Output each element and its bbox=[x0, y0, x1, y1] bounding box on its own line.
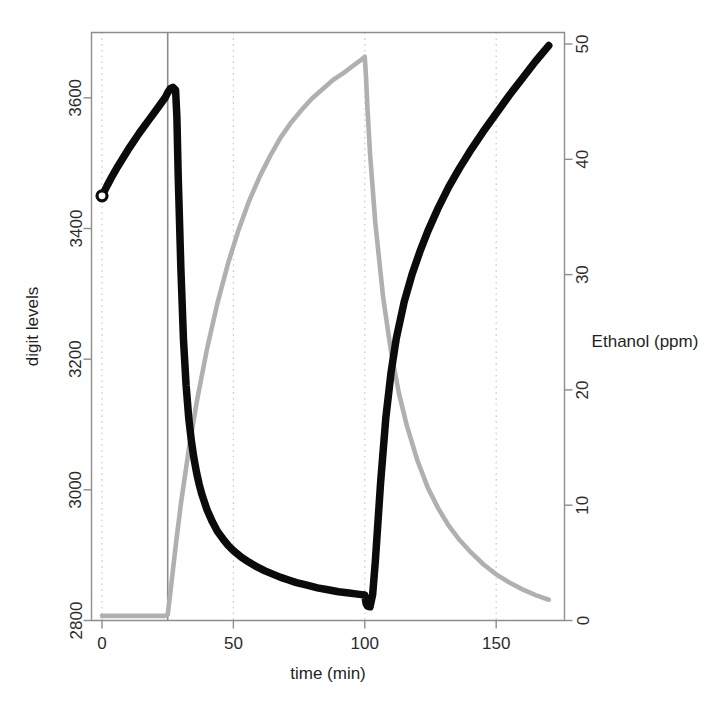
data-series bbox=[97, 46, 549, 616]
y2-tick-label-40: 40 bbox=[574, 150, 593, 169]
chart-figure: 0501001502800300032003400360001020304050… bbox=[0, 0, 720, 706]
line-chart-svg: 0501001502800300032003400360001020304050… bbox=[0, 0, 720, 706]
y-tick-label-3000: 3000 bbox=[67, 471, 86, 509]
y2-tick-label-50: 50 bbox=[574, 35, 593, 54]
y-tick-label-3400: 3400 bbox=[67, 210, 86, 248]
axis-ticks bbox=[84, 44, 573, 628]
y2-tick-label-30: 30 bbox=[574, 265, 593, 284]
series-digit-levels bbox=[102, 46, 549, 607]
gridlines bbox=[102, 33, 496, 621]
y2-tick-label-10: 10 bbox=[574, 496, 593, 515]
y-axis-title: digit levels bbox=[23, 287, 42, 366]
x-tick-label-100: 100 bbox=[351, 634, 379, 653]
x-tick-label-50: 50 bbox=[224, 634, 243, 653]
x-axis-title: time (min) bbox=[290, 664, 366, 683]
y-tick-label-3600: 3600 bbox=[67, 79, 86, 117]
y-tick-label-2800: 2800 bbox=[67, 602, 86, 640]
x-tick-label-0: 0 bbox=[97, 634, 106, 653]
y2-tick-label-0: 0 bbox=[574, 616, 593, 625]
y-tick-label-3200: 3200 bbox=[67, 340, 86, 378]
series-start-marker bbox=[97, 191, 107, 201]
y2-tick-label-20: 20 bbox=[574, 380, 593, 399]
y2-axis-title: Ethanol (ppm) bbox=[592, 332, 699, 351]
x-tick-label-150: 150 bbox=[482, 634, 510, 653]
series-ethanol-ppm bbox=[102, 57, 549, 616]
